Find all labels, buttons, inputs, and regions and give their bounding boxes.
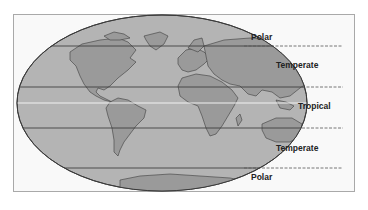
- zone-label-temperate-south: Temperate: [276, 143, 318, 153]
- zone-label-tropical: Tropical: [298, 101, 331, 111]
- zone-label-polar-south: Polar: [251, 172, 272, 182]
- zone-label-polar-north: Polar: [251, 32, 272, 42]
- australia: [262, 118, 302, 142]
- zone-label-temperate-north: Temperate: [276, 60, 318, 70]
